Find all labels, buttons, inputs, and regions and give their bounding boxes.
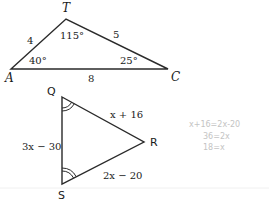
- side-qs-label: 3x − 30: [22, 141, 61, 152]
- angle-q-arc-icon: [62, 104, 74, 111]
- side-at-label: 4: [27, 35, 33, 46]
- vertex-r-label: R: [150, 136, 158, 149]
- angle-c-label: 25°: [120, 55, 138, 66]
- handwritten-note: 36=2x: [203, 132, 230, 141]
- angle-a-label: 40°: [29, 55, 47, 66]
- vertex-q-label: Q: [47, 85, 56, 98]
- angle-s-arc-icon: [62, 171, 74, 178]
- side-tc-label: 5: [113, 29, 119, 40]
- triangle-qrs: Q R S x + 16 3x − 30 2x − 20: [22, 85, 158, 202]
- geometry-figure: T A C 4 5 8 115° 40° 25° Q R S x + 16 3x…: [0, 0, 269, 218]
- vertex-a-label: A: [4, 71, 14, 85]
- angle-t-label: 115°: [60, 30, 84, 41]
- handwritten-note: 18=x: [203, 143, 225, 152]
- angle-q-arc-icon: [62, 102, 72, 108]
- side-qr-label: x + 16: [110, 109, 143, 120]
- vertex-c-label: C: [171, 70, 180, 84]
- vertex-t-label: T: [62, 1, 71, 15]
- handwritten-notes: x+16=2x-20 36=2x 18=x: [189, 120, 240, 152]
- triangle-atc: T A C 4 5 8 115° 40° 25°: [4, 1, 180, 85]
- side-ac-label: 8: [88, 73, 94, 84]
- side-sr-label: 2x − 20: [103, 170, 142, 181]
- handwritten-note: x+16=2x-20: [189, 120, 240, 129]
- vertex-s-label: S: [58, 189, 65, 202]
